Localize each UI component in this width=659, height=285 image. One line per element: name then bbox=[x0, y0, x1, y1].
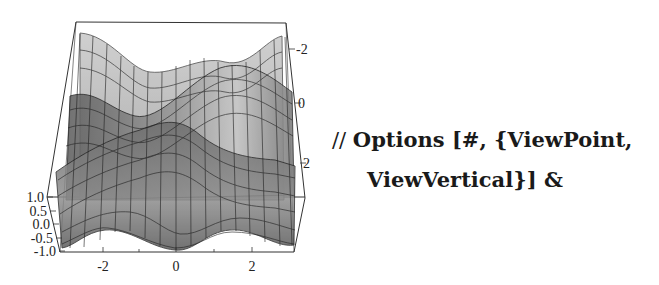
y-tick-label: 2 bbox=[303, 156, 310, 171]
postfix-operator: // bbox=[332, 128, 346, 152]
x-tick-label: -2 bbox=[97, 259, 109, 274]
z-tick-label: 0.0 bbox=[33, 217, 51, 232]
surface-plot: 1.0 0.5 0.0 -0.5 -1.0 -2 0 2 -2 0 2 bbox=[0, 0, 330, 285]
x-tick-label: 0 bbox=[173, 259, 180, 274]
code-line-2: ViewVertical}] & bbox=[367, 167, 563, 192]
z-tick-label: -1.0 bbox=[34, 244, 56, 259]
z-tick-label: 1.0 bbox=[27, 190, 45, 205]
x-tick-label: 2 bbox=[249, 259, 256, 274]
y-tick-label: 0 bbox=[298, 96, 305, 111]
y-tick-label: -2 bbox=[296, 42, 308, 57]
code-line-1: // Options [#, {ViewPoint, bbox=[332, 127, 632, 152]
code-text-line-2: ViewVertical}] & bbox=[367, 167, 563, 192]
code-text-line-1: Options [#, {ViewPoint, bbox=[353, 127, 633, 152]
